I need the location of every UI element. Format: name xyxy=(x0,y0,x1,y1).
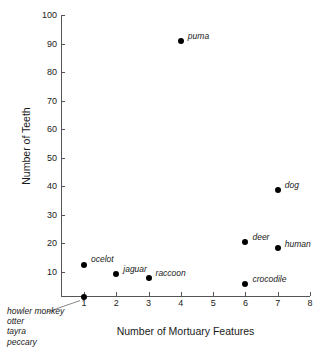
y-tick-100 xyxy=(61,15,65,16)
y-axis-title: Number of Teeth xyxy=(20,66,32,226)
scatter-chart-figure: 102030405060708090100 12345678 pumadogde… xyxy=(0,0,329,359)
data-point-crocodile xyxy=(242,281,248,287)
x-tick-8 xyxy=(310,292,311,296)
origin-species-item-1: otter xyxy=(7,316,64,326)
data-point-label-dog: dog xyxy=(285,181,299,190)
origin-species-item-2: tayra xyxy=(7,326,64,336)
x-tick-label-2: 2 xyxy=(109,299,123,308)
y-tick-label-60: 60 xyxy=(33,125,57,134)
data-point-label-ocelot: ocelot xyxy=(91,255,114,264)
y-tick-label-90: 90 xyxy=(33,40,57,49)
x-tick-label-3: 3 xyxy=(142,299,156,308)
y-tick-label-30: 30 xyxy=(33,211,57,220)
data-point-label-crocodile: crocodile xyxy=(252,275,286,284)
data-point-label-puma: puma xyxy=(188,32,209,41)
x-tick-label-5: 5 xyxy=(206,299,220,308)
x-tick-label-6: 6 xyxy=(238,299,252,308)
data-point-raccoon xyxy=(146,275,152,281)
y-tick-label-50: 50 xyxy=(33,154,57,163)
origin-species-list: howler monkeyottertayrapeccary xyxy=(7,306,64,347)
y-tick-70 xyxy=(61,101,65,102)
y-tick-30 xyxy=(61,215,65,216)
origin-species-item-3: peccary xyxy=(7,337,64,347)
data-point-label-jaguar: jaguar xyxy=(123,265,147,274)
x-axis-line xyxy=(61,296,310,297)
y-tick-label-20: 20 xyxy=(33,239,57,248)
y-tick-label-100: 100 xyxy=(33,11,57,20)
x-tick-label-4: 4 xyxy=(174,299,188,308)
x-tick-label-7: 7 xyxy=(271,299,285,308)
y-tick-label-40: 40 xyxy=(33,182,57,191)
x-tick-label-8: 8 xyxy=(303,299,317,308)
x-tick-6 xyxy=(245,292,246,296)
data-point-ocelot xyxy=(81,262,87,268)
data-point-dog xyxy=(275,187,281,193)
data-point-human xyxy=(275,245,281,251)
x-tick-4 xyxy=(181,292,182,296)
y-tick-label-80: 80 xyxy=(33,68,57,77)
y-tick-60 xyxy=(61,129,65,130)
data-point-deer xyxy=(242,239,248,245)
y-tick-80 xyxy=(61,72,65,73)
y-tick-10 xyxy=(61,272,65,273)
y-tick-label-70: 70 xyxy=(33,97,57,106)
data-point-unlabeled xyxy=(81,294,87,300)
x-tick-2 xyxy=(116,292,117,296)
data-point-label-human: human xyxy=(285,240,311,249)
y-tick-40 xyxy=(61,186,65,187)
x-tick-label-1: 1 xyxy=(77,299,91,308)
x-tick-7 xyxy=(278,292,279,296)
y-tick-90 xyxy=(61,44,65,45)
y-tick-label-10: 10 xyxy=(33,268,57,277)
data-point-label-raccoon: raccoon xyxy=(156,269,186,278)
plot-area: 102030405060708090100 12345678 pumadogde… xyxy=(0,0,329,359)
y-tick-20 xyxy=(61,243,65,244)
y-tick-50 xyxy=(61,158,65,159)
data-point-puma xyxy=(178,38,184,44)
y-axis-line xyxy=(61,15,62,296)
x-tick-3 xyxy=(149,292,150,296)
data-point-jaguar xyxy=(113,271,119,277)
x-axis-title: Number of Mortuary Features xyxy=(61,325,310,337)
data-point-label-deer: deer xyxy=(252,233,269,242)
x-tick-5 xyxy=(213,292,214,296)
origin-species-item-0: howler monkey xyxy=(7,306,64,316)
